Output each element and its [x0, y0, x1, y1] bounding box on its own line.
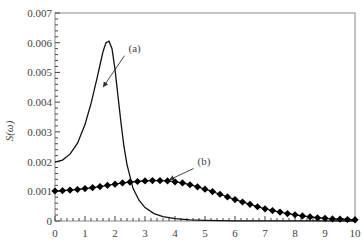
- diamond-marker: [254, 203, 261, 210]
- diamond-marker: [149, 177, 156, 184]
- x-tick-label: 0: [52, 227, 58, 239]
- chart: 01234567891000.0010.0020.0030.0040.0050.…: [0, 0, 364, 245]
- diamond-marker: [171, 178, 178, 185]
- x-tick-label: 4: [172, 227, 178, 239]
- diamond-marker: [299, 212, 306, 219]
- x-tick-label: 7: [262, 227, 268, 239]
- annotation-label: (a): [129, 42, 142, 55]
- y-tick-label: 0.002: [27, 156, 52, 168]
- plot-axes: 01234567891000.0010.0020.0030.0040.0050.…: [27, 7, 361, 239]
- diamond-marker: [216, 191, 223, 198]
- diamond-marker: [89, 184, 96, 191]
- diamond-marker: [336, 216, 343, 223]
- x-tick-label: 8: [292, 227, 298, 239]
- spectrum-plot: 01234567891000.0010.0020.0030.0040.0050.…: [0, 0, 364, 245]
- x-tick-label: 10: [350, 227, 362, 239]
- diamond-marker: [74, 186, 81, 193]
- x-tick-label: 1: [82, 227, 88, 239]
- diamond-marker: [66, 186, 73, 193]
- diamond-marker: [111, 181, 118, 188]
- diamond-marker: [194, 183, 201, 190]
- y-axis-label: S(ω): [3, 120, 16, 141]
- diamond-marker: [246, 201, 253, 208]
- diamond-marker: [269, 207, 276, 214]
- diamond-marker: [291, 211, 298, 218]
- diamond-marker: [141, 177, 148, 184]
- y-tick-label: 0.007: [27, 7, 52, 19]
- diamond-marker: [224, 193, 231, 200]
- diamond-marker: [239, 198, 246, 205]
- diamond-marker: [201, 186, 208, 193]
- y-tick-label: 0: [47, 215, 53, 227]
- y-tick-label: 0.005: [27, 66, 52, 78]
- diamond-marker: [276, 208, 283, 215]
- diamond-marker: [104, 182, 111, 189]
- x-tick-label: 5: [202, 227, 208, 239]
- diamond-marker: [119, 179, 126, 186]
- y-tick-label: 0.006: [27, 37, 52, 49]
- annotation-label: (b): [198, 155, 211, 168]
- diamond-marker: [51, 187, 58, 194]
- diamond-marker: [186, 181, 193, 188]
- y-tick-label: 0.004: [27, 96, 52, 108]
- diamond-marker: [59, 187, 66, 194]
- diamond-marker: [351, 216, 358, 223]
- diamond-marker: [231, 196, 238, 203]
- diamond-marker: [284, 210, 291, 217]
- y-tick-label: 0.001: [27, 185, 52, 197]
- diamond-marker: [96, 183, 103, 190]
- x-tick-label: 9: [322, 227, 328, 239]
- x-tick-label: 2: [112, 227, 118, 239]
- plot-series: [51, 41, 358, 223]
- diamond-marker: [209, 188, 216, 195]
- diamond-marker: [314, 214, 321, 221]
- series-line-a: [55, 41, 355, 221]
- diamond-marker: [134, 178, 141, 185]
- diamond-marker: [344, 216, 351, 223]
- diamond-marker: [81, 185, 88, 192]
- x-tick-label: 6: [232, 227, 238, 239]
- diamond-marker: [156, 177, 163, 184]
- diamond-marker: [179, 179, 186, 186]
- diamond-marker: [261, 205, 268, 212]
- x-tick-label: 3: [142, 227, 148, 239]
- annotation-arrow: [169, 169, 194, 180]
- y-tick-label: 0.003: [27, 126, 52, 138]
- diamond-marker: [164, 177, 171, 184]
